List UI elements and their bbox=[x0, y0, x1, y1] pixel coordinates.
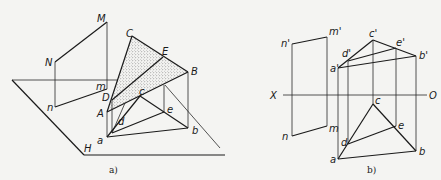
label-n-prime: n' bbox=[281, 38, 290, 49]
label-d: d bbox=[118, 116, 125, 127]
label-e: e bbox=[167, 104, 173, 115]
label-O: O bbox=[429, 90, 437, 101]
label-b2: b bbox=[419, 146, 425, 157]
label-A: A bbox=[96, 108, 104, 119]
caption-b: b) bbox=[367, 165, 376, 175]
figure-a: M N n m C E B D A c e d a b H a) bbox=[12, 13, 225, 175]
projection-diagram: M N n m C E B D A c e d a b H a) bbox=[0, 0, 441, 180]
label-m2: m bbox=[329, 123, 339, 134]
label-d2: d bbox=[341, 137, 348, 148]
label-d-prime: d' bbox=[342, 48, 351, 59]
label-n2: n bbox=[282, 131, 288, 142]
top-view-triangle bbox=[338, 104, 416, 159]
label-b-prime: b' bbox=[419, 50, 428, 61]
caption-a: a) bbox=[109, 165, 118, 175]
label-X: X bbox=[269, 90, 278, 101]
plane-mn bbox=[55, 22, 107, 107]
label-H: H bbox=[84, 143, 92, 154]
label-D: D bbox=[102, 92, 110, 103]
label-N: N bbox=[45, 57, 53, 68]
plane-mn-projection bbox=[292, 37, 327, 136]
label-m: m bbox=[96, 81, 106, 92]
label-m-prime: m' bbox=[329, 26, 342, 37]
label-B: B bbox=[191, 66, 198, 77]
label-b: b bbox=[192, 125, 198, 136]
label-a2: a bbox=[330, 154, 336, 165]
label-M: M bbox=[97, 13, 106, 24]
label-a-prime: a' bbox=[330, 63, 339, 74]
figure-b: X O n' m' n m c' e' b' d' a' c e d a b b… bbox=[269, 26, 437, 175]
label-c: c bbox=[139, 86, 145, 97]
label-e-prime: e' bbox=[396, 37, 405, 48]
label-e2: e bbox=[398, 120, 404, 131]
label-C: C bbox=[126, 28, 133, 39]
label-E: E bbox=[162, 46, 169, 57]
label-n: n bbox=[47, 102, 53, 113]
label-c-prime: c' bbox=[369, 28, 377, 39]
label-a: a bbox=[97, 135, 103, 146]
label-c2: c bbox=[375, 95, 381, 106]
